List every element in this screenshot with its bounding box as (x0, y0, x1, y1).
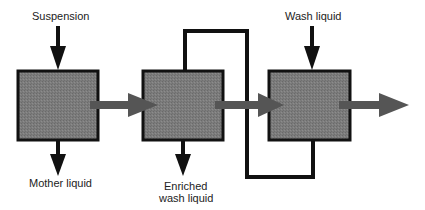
mother-liquid-arrow-icon (50, 140, 66, 176)
label-wash-liquid: Wash liquid (285, 10, 341, 22)
enriched-wash-arrow-icon (175, 140, 191, 176)
washing-process-diagram: Suspension Mother liquid Enriched wash l… (0, 0, 425, 210)
wash-liquid-arrow-icon (304, 26, 320, 70)
stage-1-box (18, 71, 98, 140)
suspension-arrow-icon (50, 26, 66, 70)
label-mother-liquid: Mother liquid (29, 177, 92, 189)
label-enriched-line1: Enriched (164, 180, 207, 192)
label-enriched-line2: wash liquid (158, 192, 213, 204)
label-suspension: Suspension (32, 10, 90, 22)
